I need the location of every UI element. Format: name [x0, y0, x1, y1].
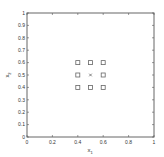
- y-tick-label: 0.3: [18, 97, 25, 103]
- y-tick-label: 0.7: [18, 47, 25, 53]
- y-axis-label: x2: [4, 72, 12, 78]
- x-tick-label: 0.6: [100, 139, 107, 145]
- y-tick-label: 0: [22, 134, 25, 140]
- x-axis-label: x1: [87, 147, 93, 155]
- y-tick-label: 0.2: [18, 109, 25, 115]
- x-tick-label: 1: [153, 139, 156, 145]
- x-tick-label: 0.8: [125, 139, 132, 145]
- x-tick-label: 0: [26, 139, 29, 145]
- y-tick-label: 0.8: [18, 35, 25, 41]
- y-tick-label: 0.9: [18, 22, 25, 28]
- x-tick-label: 0.4: [74, 139, 81, 145]
- y-tick-label: 0.6: [18, 59, 25, 65]
- y-tick-label: 0.4: [18, 84, 25, 90]
- x-tick-label: 0.2: [49, 139, 56, 145]
- scatter-chart: 00.20.40.60.81 00.10.20.30.40.50.60.70.8…: [0, 0, 164, 157]
- y-tick-label: 0.1: [18, 121, 25, 127]
- y-tick-label: 1: [22, 10, 25, 16]
- y-tick-label: 0.5: [18, 72, 25, 78]
